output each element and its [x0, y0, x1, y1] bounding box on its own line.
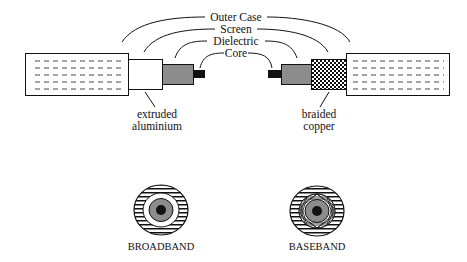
core-dot — [312, 206, 322, 216]
broadband-cross-section: BROADBAND — [128, 185, 195, 252]
core-dot — [156, 205, 166, 215]
leader-screen-right — [257, 29, 328, 52]
annotation-aluminium: aluminium — [132, 120, 182, 132]
leader-core-right — [248, 53, 272, 68]
leader-braided-copper — [320, 92, 329, 107]
annotation-extruded: extruded — [137, 108, 177, 120]
label-core: Core — [225, 47, 247, 59]
core-right — [268, 70, 281, 78]
baseband-label: BASEBAND — [289, 241, 346, 252]
component-labels: Outer Case Screen Dielectric Core — [210, 11, 261, 59]
leader-screen-left — [144, 29, 215, 52]
leader-core-left — [200, 53, 224, 68]
coaxial-cable-diagram: Outer Case Screen Dielectric Core — [0, 0, 467, 262]
material-annotations: extruded aluminium braided copper — [132, 108, 336, 133]
dielectric-left — [163, 65, 194, 85]
dielectric-right — [282, 65, 312, 85]
baseband-cross-section: BASEBAND — [289, 186, 346, 252]
right-cable — [268, 54, 450, 96]
screen-braided-copper — [312, 60, 347, 90]
label-outer-case: Outer Case — [210, 11, 261, 23]
annotation-copper: copper — [303, 120, 334, 133]
left-cable — [26, 54, 206, 96]
leader-dielectric-left — [175, 41, 207, 58]
leader-outer-case-right — [267, 17, 350, 42]
screen-extruded-aluminium — [129, 60, 163, 90]
broadband-label: BROADBAND — [128, 241, 195, 252]
label-screen: Screen — [220, 23, 252, 35]
annotation-braided: braided — [302, 108, 337, 120]
label-dielectric: Dielectric — [213, 35, 258, 47]
outer-case-left — [26, 54, 129, 96]
leader-outer-case-left — [122, 17, 205, 42]
core-left — [193, 70, 205, 78]
leader-dielectric-right — [265, 41, 297, 58]
leader-extruded-aluminium — [145, 92, 155, 107]
